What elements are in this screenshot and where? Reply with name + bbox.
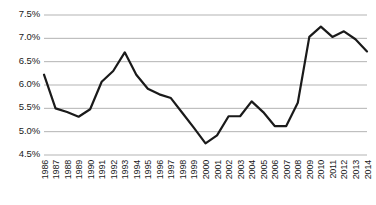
x-axis-tick-label: 1989 bbox=[74, 160, 84, 179]
x-axis-tick-label: 1987 bbox=[51, 160, 61, 179]
x-axis-tick-label: 2011 bbox=[328, 160, 338, 179]
gridlines bbox=[44, 15, 367, 155]
x-axis-tick-label: 2004 bbox=[247, 160, 257, 179]
x-axis-tick-label: 2002 bbox=[224, 160, 234, 179]
x-axis-tick-label: 1994 bbox=[132, 160, 142, 179]
x-axis-tick-label: 2005 bbox=[259, 160, 269, 179]
x-axis-tick-label: 1992 bbox=[109, 160, 119, 179]
x-axis-tick-label: 1986 bbox=[40, 160, 50, 179]
x-axis-tick-label: 1998 bbox=[178, 160, 188, 179]
x-axis-tick-label: 2006 bbox=[270, 160, 280, 179]
x-axis-tick-label: 1999 bbox=[189, 160, 199, 179]
x-axis-tick-label: 1991 bbox=[97, 160, 107, 179]
x-axis-tick-label: 2009 bbox=[305, 160, 315, 179]
x-axis-tick-label: 2014 bbox=[363, 160, 373, 179]
x-axis-tick-label: 2000 bbox=[201, 160, 211, 179]
x-axis-tick-label: 1997 bbox=[166, 160, 176, 179]
x-axis-tick-label: 2001 bbox=[213, 160, 223, 179]
x-axis-tick-label: 2007 bbox=[282, 160, 292, 179]
x-axis-tick-label: 2012 bbox=[339, 160, 349, 179]
x-axis-tick-label: 2008 bbox=[293, 160, 303, 179]
x-axis-tick-label: 2010 bbox=[316, 160, 326, 179]
line-chart: 7.5%7.0%6.5%6.0%5.5%5.0%4.5% 19861987198… bbox=[0, 0, 376, 205]
x-axis-tick-label: 2003 bbox=[236, 160, 246, 179]
x-axis-tick-label: 1990 bbox=[86, 160, 96, 179]
x-axis: 1986198719881989199019911992199319941995… bbox=[44, 160, 368, 205]
x-axis-tick-label: 2013 bbox=[351, 160, 361, 179]
x-axis-tick-label: 1996 bbox=[155, 160, 165, 179]
x-axis-tick-label: 1995 bbox=[143, 160, 153, 179]
x-axis-tick-label: 1988 bbox=[63, 160, 73, 179]
x-axis-tick-label: 1993 bbox=[120, 160, 130, 179]
